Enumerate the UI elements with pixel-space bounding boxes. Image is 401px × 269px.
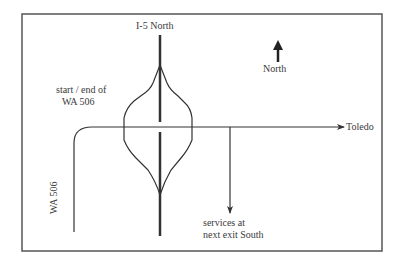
start-end-label: start / end of WA 506 [56, 84, 106, 108]
north-label: North [263, 63, 286, 75]
start-end-label-line2: WA 506 [56, 96, 106, 108]
services-label: services at next exit South [203, 217, 264, 241]
left-ramps [124, 65, 160, 195]
start-end-label-line1: start / end of [56, 84, 106, 96]
map-frame [22, 14, 382, 251]
route-label: WA 506 [48, 182, 60, 215]
highway-label: I-5 North [136, 20, 174, 32]
services-label-line2: next exit South [203, 229, 264, 241]
destination-label: Toledo [346, 121, 374, 133]
north-arrow-icon [273, 40, 283, 62]
services-label-line1: services at [203, 217, 264, 229]
interchange-map [0, 0, 401, 269]
right-ramps [160, 65, 192, 195]
